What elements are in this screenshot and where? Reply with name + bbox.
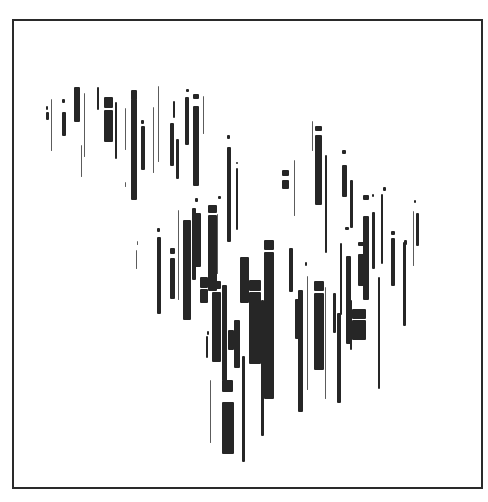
vertical-bar <box>325 287 326 399</box>
vertical-bar <box>413 211 414 266</box>
vertical-bar <box>176 139 179 179</box>
vertical-bar <box>62 112 66 136</box>
vertical-bar <box>186 239 187 292</box>
vertical-bar <box>383 187 386 191</box>
vertical-bar <box>249 292 261 364</box>
vertical-bar <box>115 102 117 159</box>
vertical-bar <box>153 107 154 173</box>
vertical-bar <box>183 220 191 320</box>
vertical-bar <box>363 216 369 300</box>
vertical-bar <box>298 290 303 412</box>
vertical-bar <box>236 168 238 230</box>
vertical-bar <box>378 277 380 389</box>
vertical-bar <box>342 150 346 154</box>
vertical-bar <box>340 243 342 315</box>
vertical-bar <box>222 380 233 392</box>
vertical-bar <box>178 210 179 300</box>
vertical-bar <box>46 112 49 120</box>
vertical-bar <box>46 106 48 110</box>
vertical-bar <box>352 320 366 340</box>
vertical-bar <box>51 99 52 151</box>
vertical-bar <box>350 180 353 228</box>
vertical-bar <box>200 277 208 288</box>
vertical-bar <box>141 120 144 124</box>
vertical-bar <box>242 356 245 462</box>
vertical-bar <box>125 182 126 187</box>
vertical-bar <box>345 227 349 230</box>
vertical-bar <box>74 87 80 122</box>
vertical-bar <box>170 123 174 166</box>
vertical-bar <box>363 195 369 200</box>
vertical-bar <box>157 228 160 232</box>
vertical-bar <box>195 213 201 267</box>
vertical-bar <box>391 238 395 286</box>
vertical-bar <box>352 309 366 319</box>
vertical-bar <box>381 194 383 264</box>
vertical-bar <box>157 237 161 314</box>
vertical-bar <box>185 97 189 145</box>
vertical-bar <box>372 212 375 269</box>
vertical-bar <box>222 285 227 381</box>
vertical-bar <box>217 214 218 274</box>
vertical-bar <box>282 180 289 189</box>
vertical-bar <box>97 87 99 110</box>
vertical-bar <box>203 96 204 134</box>
vertical-bar <box>208 205 217 213</box>
vertical-bar <box>240 257 249 303</box>
vertical-bar <box>236 162 238 164</box>
vertical-bar <box>212 281 221 289</box>
vertical-bar <box>193 94 199 99</box>
vertical-bar <box>414 200 416 203</box>
vertical-bar <box>305 262 307 266</box>
vertical-bar <box>104 110 113 142</box>
vertical-bar <box>137 241 138 245</box>
vertical-bar <box>62 99 65 103</box>
vertical-bar <box>136 250 137 269</box>
vertical-bar <box>234 320 240 368</box>
vertical-bar <box>210 380 211 443</box>
vertical-bar <box>158 86 159 162</box>
vertical-bar <box>289 248 293 292</box>
vertical-bar <box>208 215 217 291</box>
vertical-bar <box>391 231 395 235</box>
vertical-bar <box>282 170 289 176</box>
vertical-bar <box>212 292 221 362</box>
vertical-bar <box>84 93 85 157</box>
vertical-bar <box>170 248 175 254</box>
vertical-bar <box>314 281 324 291</box>
vertical-bar <box>104 97 113 108</box>
vertical-bar <box>207 331 209 335</box>
vertical-bar <box>206 336 208 358</box>
vertical-bar <box>315 135 322 205</box>
vertical-bar <box>314 293 324 370</box>
vertical-bar <box>307 276 308 390</box>
vertical-bar <box>227 135 230 139</box>
vertical-bar <box>186 89 189 92</box>
vertical-bar <box>173 101 175 118</box>
vertical-bar <box>325 155 327 253</box>
vertical-bar-composition <box>0 0 488 502</box>
vertical-bar <box>294 160 295 216</box>
vertical-bar <box>249 280 261 291</box>
vertical-bar <box>195 198 198 202</box>
vertical-bar <box>403 242 406 326</box>
vertical-bar <box>141 126 145 170</box>
vertical-bar <box>193 106 199 186</box>
vertical-bar <box>312 121 313 151</box>
vertical-bar <box>218 196 221 199</box>
vertical-bar <box>222 402 234 454</box>
vertical-bar <box>227 147 231 242</box>
vertical-bar <box>264 252 274 399</box>
vertical-bar <box>315 126 322 131</box>
vertical-bar <box>416 213 419 246</box>
vertical-bar <box>81 145 82 177</box>
vertical-bar <box>200 289 208 303</box>
vertical-bar <box>125 108 126 150</box>
vertical-bar <box>264 240 274 250</box>
vertical-bar <box>333 293 336 333</box>
vertical-bar <box>342 165 347 197</box>
vertical-bar <box>372 194 374 197</box>
vertical-bar <box>337 313 341 403</box>
vertical-bar <box>131 99 137 200</box>
vertical-bar <box>170 258 175 299</box>
